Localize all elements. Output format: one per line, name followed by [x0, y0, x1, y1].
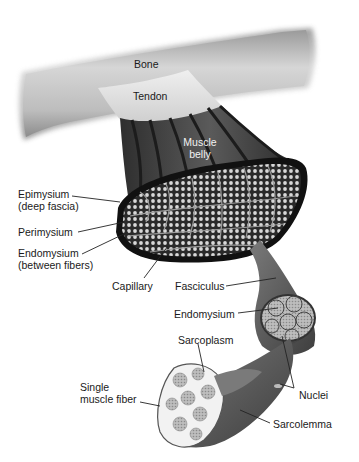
label-perimysium: Perimysium — [18, 226, 73, 238]
fasciculus — [250, 240, 316, 355]
label-endomysium: Endomysium — [174, 308, 235, 320]
label-epimysium-line2: (deep fascia) — [18, 200, 79, 212]
label-capillary: Capillary — [112, 280, 153, 292]
label-single-fiber-line1: Single — [80, 381, 137, 393]
label-endomysium-between-line2: (between fibers) — [18, 259, 93, 271]
label-fasciculus: Fasciculus — [175, 280, 225, 292]
label-muscle-belly: Muscle belly — [178, 136, 222, 160]
label-single-fiber-line2: muscle fiber — [80, 393, 137, 405]
label-single-muscle-fiber: Single muscle fiber — [80, 381, 137, 405]
single-muscle-fiber — [158, 338, 294, 447]
label-endomysium-between-line1: Endomysium — [18, 247, 93, 259]
label-nuclei: Nuclei — [299, 389, 328, 401]
label-muscle-belly-line2: belly — [178, 148, 222, 160]
label-epimysium-line1: Epimysium — [18, 188, 79, 200]
label-epimysium: Epimysium (deep fascia) — [18, 188, 79, 212]
label-bone: Bone — [134, 58, 159, 70]
label-tendon: Tendon — [133, 90, 167, 102]
label-sarcoplasm: Sarcoplasm — [178, 334, 233, 346]
label-endomysium-between-fibers: Endomysium (between fibers) — [18, 247, 93, 271]
muscle-structure-diagram: Bone Tendon Muscle belly Epimysium (deep… — [0, 0, 359, 462]
label-muscle-belly-line1: Muscle — [178, 136, 222, 148]
label-sarcolemma: Sarcolemma — [273, 418, 332, 430]
